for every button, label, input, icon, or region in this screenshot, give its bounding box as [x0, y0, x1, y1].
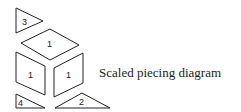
piece-rhombus-left: 1: [16, 52, 45, 95]
piece-label: 1: [28, 70, 33, 80]
piece-label: 2: [79, 97, 84, 107]
piece-triangle-2: 2: [55, 93, 110, 108]
piece-label: 3: [22, 17, 27, 27]
piece-triangle-4: 4: [16, 94, 45, 108]
piece-rhombus-top: 1: [21, 29, 79, 60]
piece-label: 4: [18, 98, 23, 108]
diagram-caption: Scaled piecing diagram: [99, 65, 221, 81]
piece-triangle-3: 3: [16, 8, 43, 33]
piece-label: 1: [47, 39, 52, 49]
piecing-diagram: 3 1 1 1 4 2: [0, 0, 241, 112]
piece-label: 1: [66, 70, 71, 80]
piece-rhombus-right: 1: [54, 53, 83, 97]
